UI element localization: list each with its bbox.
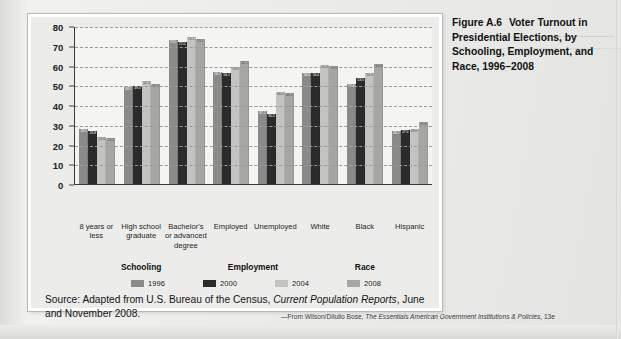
x-axis-label: High school graduate: [119, 222, 164, 250]
y-axis-tick-label: 50: [53, 81, 63, 92]
legend-label: 2000: [220, 279, 237, 288]
page-spine: [616, 0, 618, 339]
y-axis-tick-label: 40: [53, 101, 63, 112]
bar: 56.7: [213, 72, 222, 184]
figure-panel: 01020304050607080 28.126.823.623.249.149…: [28, 14, 442, 311]
bar: 52.4: [142, 81, 151, 184]
bar-value-label: 72.0: [179, 43, 186, 46]
bar-value-label: 74.2: [188, 38, 195, 41]
bar: 49.1: [124, 87, 133, 184]
x-axis-label: Black: [343, 222, 388, 250]
figure-caption: Figure A.6Voter Turnout in Presidential …: [452, 16, 602, 74]
bar-value-label: 49.4: [134, 87, 141, 90]
legend-item: 2000: [203, 279, 237, 288]
legend-item: 2004: [275, 279, 309, 288]
gridline: [75, 86, 432, 87]
x-axis-label: Bachelor's or advanced degree: [164, 222, 209, 250]
bar-value-label: 23.2: [108, 139, 115, 142]
bar: 56.3: [365, 73, 374, 184]
bar: 23.6: [97, 137, 106, 184]
bar: 73.0: [169, 40, 178, 184]
bar-value-label: 73.5: [197, 40, 204, 43]
y-axis-tick-label: 10: [53, 160, 63, 171]
bar: 27.5: [401, 130, 410, 184]
legend-swatch: [131, 280, 144, 287]
x-axis-group-label: Employment: [228, 262, 278, 272]
x-axis-label: White: [298, 222, 343, 250]
source-prefix: Source: Adapted from U.S. Bureau of the …: [45, 294, 273, 305]
legend-swatch: [275, 280, 288, 287]
bar-value-label: 59.2: [232, 68, 239, 71]
chart-area: 01020304050607080 28.126.823.623.249.149…: [39, 27, 437, 217]
y-axis-tick-label: 60: [53, 61, 63, 72]
bar: 31.6: [419, 122, 428, 184]
bar: 56.0: [302, 73, 311, 184]
legend-swatch: [347, 280, 360, 287]
x-axis-category-labels: 8 years or lessHigh school graduateBache…: [74, 222, 432, 250]
gridline: [75, 146, 432, 147]
bar-value-label: 46.4: [277, 93, 284, 96]
y-axis: 01020304050607080: [39, 27, 69, 185]
bar: 74.2: [187, 37, 196, 184]
x-axis-group-label: Race: [355, 262, 375, 272]
bar: 26.8: [88, 131, 97, 184]
x-axis-label: Employed: [208, 222, 253, 250]
bar-value-label: 59.6: [331, 67, 338, 70]
gridline: [75, 47, 432, 48]
gridline: [75, 165, 432, 166]
legend-label: 2004: [292, 279, 309, 288]
bar-value-label: 56.4: [313, 74, 320, 77]
attribution-prefix: —From Wilson/DiIulio Bose,: [281, 313, 365, 320]
bar-value-label: 37.2: [259, 112, 266, 115]
page-edge-left: [0, 0, 26, 339]
gridline: [75, 106, 432, 107]
gridline: [75, 126, 432, 127]
gridline: [75, 27, 432, 28]
bar: 35.5: [267, 114, 276, 184]
x-axis-group-labels: SchoolingEmploymentRace: [74, 262, 432, 274]
legend-item: 1996: [131, 279, 165, 288]
bar: 50.6: [347, 84, 356, 184]
book-attribution: —From Wilson/DiIulio Bose, The Essential…: [281, 313, 611, 320]
bar-value-label: 26.8: [90, 132, 97, 135]
bar: 56.4: [311, 73, 320, 184]
bar-value-label: 56.0: [304, 74, 311, 77]
bar-value-label: 27.5: [402, 131, 409, 134]
page-edge-bottom: [0, 325, 621, 339]
y-axis-tick-label: 0: [58, 180, 63, 191]
bar-value-label: 23.6: [99, 138, 106, 141]
y-axis-tick-label: 30: [53, 120, 63, 131]
bar-value-label: 35.5: [268, 115, 275, 118]
legend-item: 2008: [347, 279, 381, 288]
bar-value-label: 53.5: [357, 79, 364, 82]
x-axis-label: 8 years or less: [74, 222, 119, 250]
bar-value-label: 49.1: [125, 88, 132, 91]
bar: 37.2: [258, 111, 267, 184]
bar-value-label: 26.7: [393, 132, 400, 135]
figure-number: Figure A.6: [452, 17, 502, 28]
bar-value-label: 56.7: [214, 73, 221, 76]
bar-value-label: 73.0: [170, 41, 177, 44]
bar-value-label: 56.3: [366, 74, 373, 77]
bar-value-label: 56.1: [223, 74, 230, 77]
bar: 73.5: [196, 39, 205, 184]
x-axis-label: Hispanic: [387, 222, 432, 250]
gridline: [75, 67, 432, 68]
bar-value-label: 28.0: [411, 130, 418, 133]
legend-label: 1996: [148, 279, 165, 288]
y-axis-tick-label: 20: [53, 140, 63, 151]
legend-label: 2008: [364, 279, 381, 288]
legend-swatch: [203, 280, 216, 287]
bar: 26.7: [392, 131, 401, 184]
bar: 72.0: [178, 42, 187, 184]
scanned-page: 01020304050607080 28.126.823.623.249.149…: [0, 0, 621, 339]
bar: 28.0: [410, 129, 419, 184]
bar: 53.5: [356, 78, 365, 184]
bar-value-label: 28.1: [81, 130, 88, 133]
attribution-book-title: The Essentials American Government Insti…: [365, 313, 540, 320]
bar: 49.4: [133, 86, 142, 184]
bar-value-label: 46.2: [286, 94, 293, 97]
bar: 50.5: [151, 84, 160, 184]
bar-value-label: 52.4: [143, 82, 150, 85]
x-axis-group-label: Schooling: [121, 262, 161, 272]
